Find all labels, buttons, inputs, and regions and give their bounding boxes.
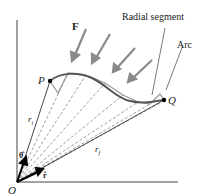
r-hat-label: r̂ [43,171,47,180]
arc-leader [166,45,183,90]
radial-segment-label: Radial segment [122,11,184,22]
force-arrows [71,29,152,82]
arc-label: Arc [177,39,193,50]
origin-label: O [8,184,16,196]
radial-dashed-lines [17,73,160,182]
point-q-label: Q [168,94,176,106]
r-final-label: rf [95,144,102,156]
radial-segment-leader [152,28,165,95]
point-p [48,79,52,83]
point-p-label: P [37,74,45,86]
work-path-diagram: F Radial segment Arc P Q ri rf θ̂ r̂ O [0,0,203,196]
point-q [162,98,166,102]
r-hat-icon [36,168,43,175]
force-label: F [72,20,79,32]
r-initial-label: ri [28,114,34,126]
particle-path [50,74,164,103]
unit-vectors [17,157,43,182]
